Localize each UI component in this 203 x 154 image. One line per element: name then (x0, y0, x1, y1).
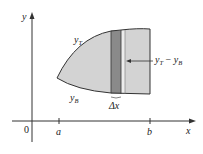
area-between-curves-diagram: y x 0 a b yT yB Δx yT − yB (0, 0, 203, 154)
dark-strip (111, 31, 121, 94)
bottom-curve-label: yB (69, 92, 78, 104)
strip-height-label: yT − yB (154, 54, 182, 66)
delta-x-brace (111, 97, 121, 98)
top-curve-label: yT (73, 34, 82, 46)
origin-label: 0 (24, 124, 29, 135)
y-axis-label: y (21, 11, 27, 22)
tick-label-b: b (147, 126, 152, 137)
x-axis-arrow-icon (189, 119, 196, 124)
thin-strip (121, 30, 125, 94)
delta-x-label: Δx (108, 100, 120, 111)
x-axis-label: x (185, 125, 191, 136)
y-axis-arrow-icon (30, 12, 35, 19)
tick-label-a: a (56, 126, 61, 137)
